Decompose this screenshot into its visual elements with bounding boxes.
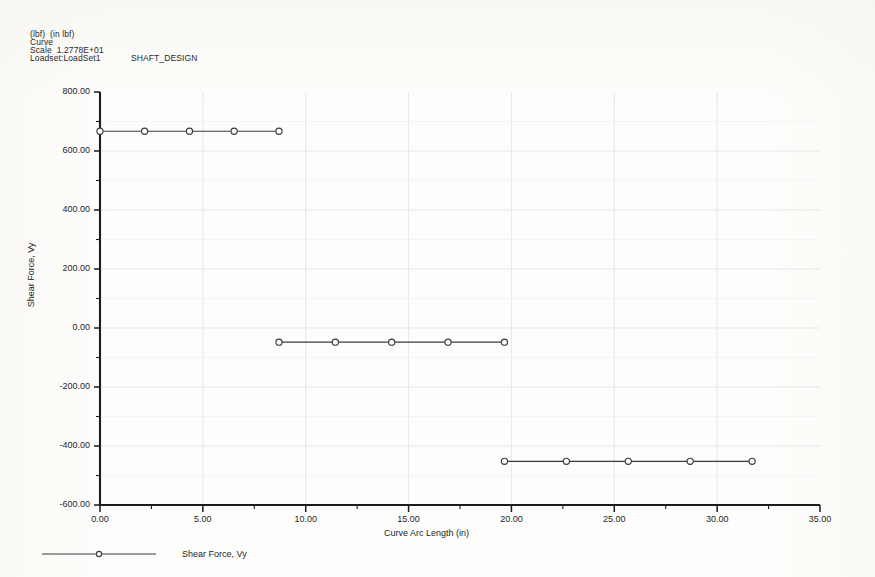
y-tick-label: 400.00 [32, 204, 90, 214]
legend-line-icon [40, 548, 158, 560]
data-point-marker [332, 339, 338, 345]
x-tick-label: 5.00 [173, 514, 233, 524]
y-tick-label: -400.00 [32, 440, 90, 450]
y-tick-label: -200.00 [32, 381, 90, 391]
data-point-marker [687, 458, 693, 464]
series-shear-force-vy [97, 128, 755, 464]
x-tick-label: 35.00 [790, 514, 850, 524]
data-point-marker [501, 339, 507, 345]
x-tick-label: 25.00 [584, 514, 644, 524]
grid-lines [100, 92, 820, 505]
data-point-marker [389, 339, 395, 345]
legend: Shear Force, Vy [40, 548, 247, 560]
data-point-marker [445, 339, 451, 345]
data-point-marker [276, 339, 282, 345]
x-tick-label: 15.00 [379, 514, 439, 524]
chart-canvas [0, 0, 875, 577]
y-tick-label: 0.00 [32, 322, 90, 332]
data-point-marker [501, 458, 507, 464]
y-tick-label: 800.00 [32, 86, 90, 96]
data-point-marker [231, 128, 237, 134]
x-tick-label: 30.00 [687, 514, 747, 524]
y-tick-label: 600.00 [32, 145, 90, 155]
y-tick-label: 200.00 [32, 263, 90, 273]
shear-force-diagram: (lbf) (in lbf) Curve Scale 1.2778E+01 Lo… [0, 0, 875, 577]
data-point-marker [276, 128, 282, 134]
x-tick-label: 10.00 [276, 514, 336, 524]
x-axis-title: Curve Arc Length (in) [384, 528, 469, 538]
data-point-marker [97, 128, 103, 134]
data-point-marker [563, 458, 569, 464]
y-tick-label: -600.00 [32, 499, 90, 509]
x-tick-label: 20.00 [481, 514, 541, 524]
data-point-marker [186, 128, 192, 134]
y-axis-title: Shear Force, Vy [26, 220, 36, 330]
legend-label-shear-force: Shear Force, Vy [182, 549, 247, 559]
data-point-marker [142, 128, 148, 134]
data-point-marker [749, 458, 755, 464]
x-tick-label: 0.00 [70, 514, 130, 524]
legend-swatch-shear-force [40, 548, 158, 560]
data-point-marker [625, 458, 631, 464]
